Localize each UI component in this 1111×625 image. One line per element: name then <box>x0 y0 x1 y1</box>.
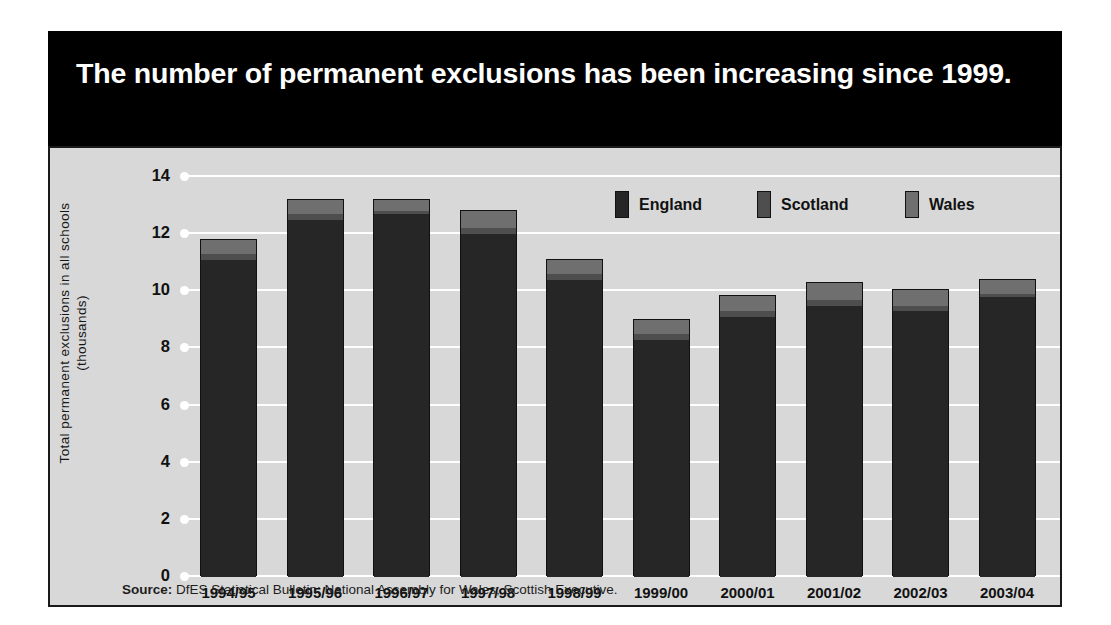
tick-marker <box>180 286 189 295</box>
bar-2003-04 <box>979 279 1036 576</box>
bar-segment-wales <box>720 296 775 312</box>
bar-1999-00 <box>633 319 690 576</box>
bar-segment-wales <box>547 260 602 274</box>
gridline <box>186 175 1060 177</box>
y-axis-title-line2: (thousands) <box>73 168 90 498</box>
y-tick-label: 14 <box>130 167 170 184</box>
source-text: DfES Statistical Bulletin; National Asse… <box>172 582 617 597</box>
tick-marker <box>180 172 189 181</box>
x-axis-label: 1999/00 <box>613 584 709 601</box>
bar-2001-02 <box>806 282 863 576</box>
tick-marker <box>180 515 189 524</box>
bar-segment-england <box>461 234 516 577</box>
y-tick-label: 6 <box>130 396 170 413</box>
legend-item-wales: Wales <box>905 191 975 218</box>
y-tick-label: 10 <box>130 281 170 298</box>
bar-segment-wales <box>980 280 1035 294</box>
bar-1998-99 <box>546 259 603 576</box>
bar-segment-england <box>201 260 256 577</box>
bar-segment-wales <box>893 290 948 306</box>
bar-segment-england <box>547 280 602 577</box>
x-axis-label: 2003/04 <box>959 584 1055 601</box>
title-band: The number of permanent exclusions has b… <box>48 31 1062 146</box>
tick-marker <box>180 343 189 352</box>
bar-segment-wales <box>374 200 429 211</box>
y-tick-label: 8 <box>130 338 170 355</box>
plot-area: 02468101214 1994/951995/961996/971997/98… <box>186 176 1060 576</box>
bar-segment-england <box>374 214 429 577</box>
bar-2002-03 <box>892 289 949 576</box>
bar-segment-england <box>980 297 1035 577</box>
source-note: Source: DfES Statistical Bulletin; Natio… <box>122 582 617 597</box>
bar-segment-wales <box>201 240 256 254</box>
bar-segment-england <box>634 340 689 577</box>
x-axis-label: 2000/01 <box>700 584 796 601</box>
legend-label: Wales <box>929 196 975 214</box>
x-axis-label: 2001/02 <box>786 584 882 601</box>
tick-marker <box>180 572 189 581</box>
bar-segment-wales <box>461 211 516 228</box>
y-axis-title-line1: Total permanent exclusions in all school… <box>57 202 72 463</box>
legend-item-england: England <box>615 191 702 218</box>
legend-swatch-england <box>615 191 629 218</box>
legend-swatch-scotland <box>757 191 771 218</box>
x-axis-label: 2002/03 <box>873 584 969 601</box>
tick-marker <box>180 458 189 467</box>
legend-label: England <box>639 196 702 214</box>
source-label: Source: <box>122 582 172 597</box>
legend-label: Scotland <box>781 196 849 214</box>
y-tick-label: 4 <box>130 453 170 470</box>
bar-segment-wales <box>634 320 689 334</box>
y-tick-label: 2 <box>130 510 170 527</box>
bar-1994-95 <box>200 239 257 576</box>
tick-marker <box>180 401 189 410</box>
legend-swatch-wales <box>905 191 919 218</box>
bar-1997-98 <box>460 210 517 576</box>
chart-title: The number of permanent exclusions has b… <box>76 53 1016 93</box>
chart-panel: Total permanent exclusions in all school… <box>48 146 1062 607</box>
bar-segment-wales <box>288 200 343 214</box>
bar-1995-96 <box>287 199 344 576</box>
legend-item-scotland: Scotland <box>757 191 849 218</box>
y-axis-title: Total permanent exclusions in all school… <box>56 168 90 498</box>
bar-segment-england <box>720 317 775 577</box>
bar-segment-england <box>893 311 948 577</box>
bar-segment-england <box>807 306 862 577</box>
figure-container: The number of permanent exclusions has b… <box>48 31 1062 607</box>
tick-marker <box>180 229 189 238</box>
bar-segment-wales <box>807 283 862 300</box>
y-tick-label: 12 <box>130 224 170 241</box>
bar-segment-england <box>288 220 343 577</box>
bar-2000-01 <box>719 295 776 576</box>
bar-1996-97 <box>373 199 430 576</box>
